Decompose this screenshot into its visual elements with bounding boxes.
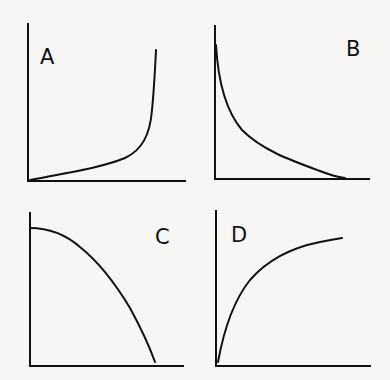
panel-c: C — [30, 212, 184, 366]
panel-c-label: C — [155, 225, 170, 249]
panel-d-curve — [218, 238, 342, 362]
panel-a-curve — [30, 50, 156, 180]
panel-a-label: A — [40, 45, 55, 69]
four-panel-chart: A B C D — [0, 0, 390, 380]
panel-b-curve — [216, 45, 345, 178]
panel-d: D — [216, 210, 371, 366]
panel-b: B — [215, 25, 370, 179]
panel-b-label: B — [346, 37, 360, 61]
panel-d-label: D — [231, 223, 247, 247]
panel-a: A — [28, 23, 186, 181]
panel-c-curve — [30, 228, 155, 362]
